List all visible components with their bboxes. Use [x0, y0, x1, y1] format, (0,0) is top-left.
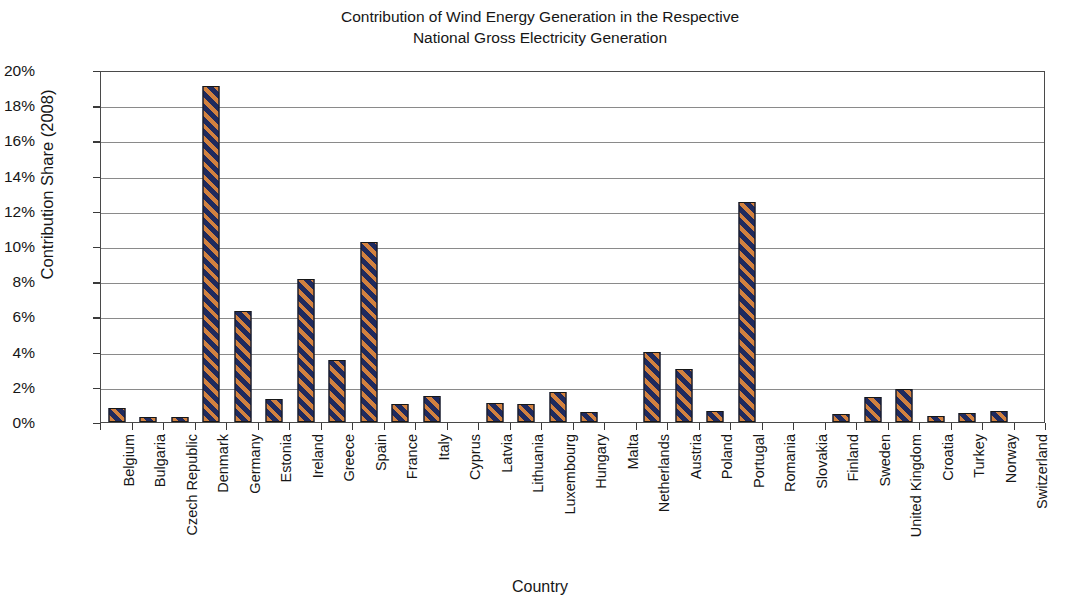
y-axis-tick-label: 2%	[0, 379, 35, 397]
y-axis-tick-mark	[93, 177, 100, 178]
x-axis-tick-label-wrap: Slovakia	[809, 379, 825, 434]
bar-slot	[259, 72, 291, 422]
x-axis-tick-label-wrap: Denmark	[210, 375, 226, 434]
bar-slot	[920, 72, 952, 422]
x-axis-tick-label: Estonia	[278, 434, 294, 482]
x-axis-tick-label-wrap: Czech Republic	[179, 332, 195, 434]
x-axis-tick-label-wrap: Romania	[777, 376, 793, 434]
bar-slot	[322, 72, 354, 422]
bar-slot	[668, 72, 700, 422]
x-axis-tick-label: Poland	[719, 434, 735, 479]
x-axis-tick-label: Romania	[782, 434, 798, 492]
bar-slot	[826, 72, 858, 422]
y-axis-tick-mark	[93, 141, 100, 142]
x-axis-tick-label-wrap: Spain	[368, 397, 384, 434]
y-axis-tick-mark	[93, 106, 100, 107]
bar-slot	[385, 72, 417, 422]
bar-slot	[290, 72, 322, 422]
bar-slot	[983, 72, 1015, 422]
bar-slot	[416, 72, 448, 422]
y-axis-tick-label: 6%	[0, 308, 35, 326]
x-axis-tick-label-wrap: Belgium	[116, 382, 132, 434]
x-axis-tick-label: Spain	[373, 434, 389, 471]
x-axis-tick-label: Denmark	[215, 434, 231, 493]
x-axis-tick-label-wrap: Estonia	[273, 386, 289, 434]
y-axis-tick-label: 16%	[0, 132, 35, 150]
x-axis-tick-mark	[289, 423, 290, 430]
y-axis-tick-label: 8%	[0, 273, 35, 291]
bar-denmark[interactable]	[203, 86, 220, 422]
x-axis-tick-label: Czech Republic	[184, 434, 200, 536]
y-axis-tick-mark	[93, 247, 100, 248]
x-axis-tick-label: Malta	[625, 434, 641, 469]
bar-slot	[133, 72, 165, 422]
y-axis-tick-label: 20%	[0, 62, 35, 80]
x-axis-tick-label-wrap: Malta	[620, 399, 636, 434]
x-axis-tick-label: Hungary	[593, 434, 609, 489]
page-title: Contribution of Wind Energy Generation i…	[0, 6, 1080, 48]
x-axis-tick-mark	[730, 423, 731, 430]
x-axis-tick-mark	[415, 423, 416, 430]
x-axis-tick-label: Croatia	[940, 434, 956, 481]
bar-slot	[574, 72, 606, 422]
y-axis-tick-label: 18%	[0, 97, 35, 115]
y-axis-tick-label: 12%	[0, 203, 35, 221]
bar-slot	[700, 72, 732, 422]
x-axis-tick-label: Greece	[341, 434, 357, 482]
x-axis-tick-label: Slovakia	[814, 434, 830, 489]
x-axis-tick-label: United Kingdom	[908, 434, 924, 537]
y-axis-tick-mark	[93, 282, 100, 283]
x-axis-tick-mark	[667, 423, 668, 430]
bar-slot	[479, 72, 511, 422]
x-axis-tick-label-wrap: Lithuania	[525, 375, 541, 434]
x-axis-tick-label-wrap: Portugal	[746, 380, 762, 434]
y-axis-tick-mark	[93, 71, 100, 72]
bar-slot	[196, 72, 228, 422]
x-axis-tick-label: Turkey	[971, 434, 987, 478]
chart-title-line-1: Contribution of Wind Energy Generation i…	[0, 6, 1080, 27]
x-axis-tick-mark	[919, 423, 920, 430]
x-axis-tick-label: Austria	[688, 434, 704, 479]
x-axis-tick-label: Finland	[845, 434, 861, 482]
x-axis-tick-mark	[982, 423, 983, 430]
x-axis-tick-label: Luxembourg	[562, 434, 578, 515]
y-axis-title: Contribution Share (2008)	[38, 20, 57, 350]
x-axis-tick-label: Latvia	[499, 434, 515, 473]
x-axis-tick-label: Cyprus	[467, 434, 483, 480]
x-axis-tick-label: Ireland	[310, 434, 326, 478]
x-axis-tick-label: Belgium	[121, 434, 137, 486]
x-axis-tick-mark	[100, 423, 101, 430]
x-axis-tick-label: Switzerland	[1034, 434, 1050, 509]
bar-spain[interactable]	[360, 242, 377, 422]
x-axis-tick-label-wrap: France	[399, 389, 415, 434]
bar-slot	[448, 72, 480, 422]
x-axis-tick-label-wrap: Poland	[714, 389, 730, 434]
x-axis-tick-label: Bulgaria	[152, 434, 168, 487]
bar-slot	[227, 72, 259, 422]
x-axis-tick-label: Portugal	[751, 434, 767, 488]
x-axis-tick-label: Lithuania	[530, 434, 546, 493]
x-axis-tick-label-wrap: Italy	[431, 407, 447, 434]
bar-slot	[353, 72, 385, 422]
x-axis-tick-label-wrap: Switzerland	[1029, 359, 1045, 434]
y-axis-tick-label: 4%	[0, 344, 35, 362]
x-axis-tick-label: Norway	[1003, 434, 1019, 483]
y-axis-tick-label: 0%	[0, 414, 35, 432]
x-axis-tick-label: Sweden	[877, 434, 893, 486]
x-axis-title: Country	[0, 578, 1080, 596]
x-axis-tick-label-wrap: Norway	[998, 385, 1014, 434]
x-axis-tick-mark	[352, 423, 353, 430]
x-axis-tick-label: France	[404, 434, 420, 479]
x-axis-tick-label-wrap: Latvia	[494, 395, 510, 434]
y-axis-tick-mark	[93, 388, 100, 389]
x-axis-tick-label-wrap: Sweden	[872, 382, 888, 434]
x-axis-tick-label-wrap: Turkey	[966, 390, 982, 434]
x-axis-tick-label-wrap: Luxembourg	[557, 353, 573, 434]
bar-slot	[952, 72, 984, 422]
bar-slot	[794, 72, 826, 422]
x-axis-tick-mark	[478, 423, 479, 430]
x-axis-tick-mark	[163, 423, 164, 430]
x-axis-tick-label: Netherlands	[656, 434, 672, 512]
x-axis-tick-label: Germany	[247, 434, 263, 494]
x-axis-tick-label-wrap: Bulgaria	[147, 381, 163, 434]
